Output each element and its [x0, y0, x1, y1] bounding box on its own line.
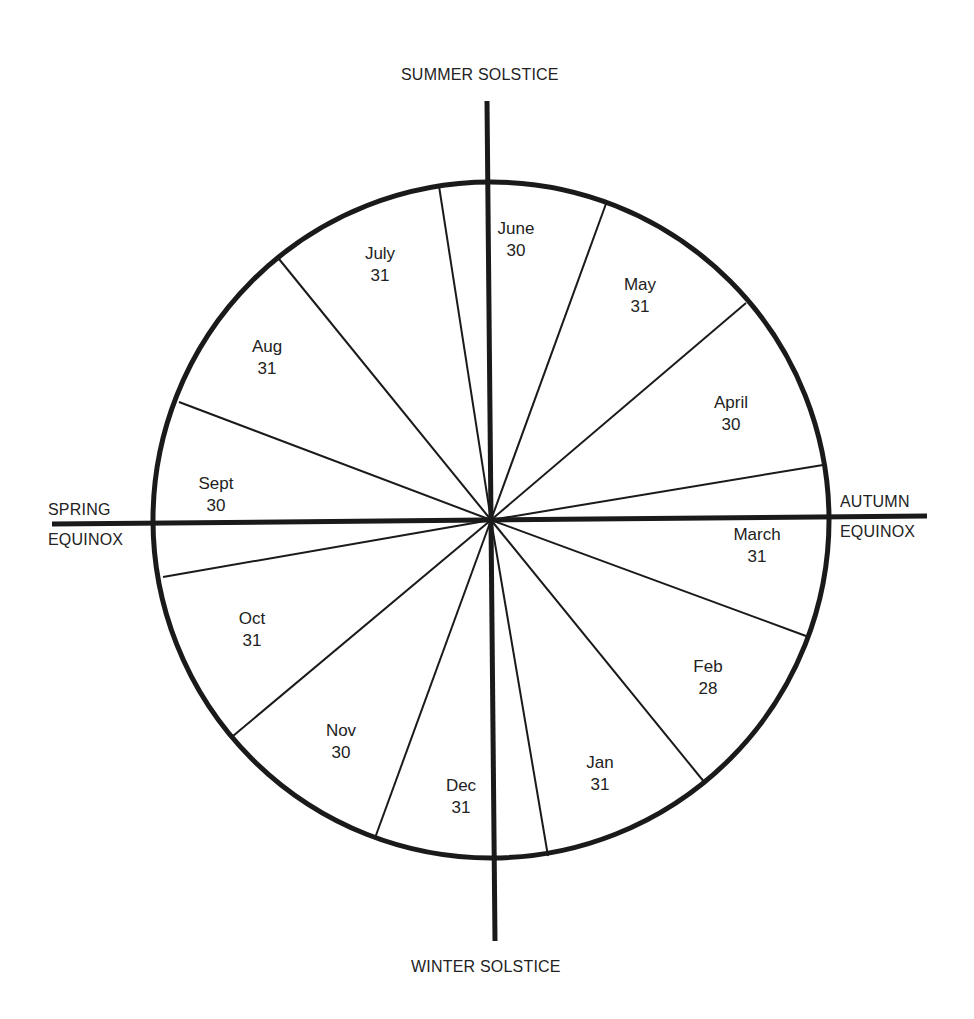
- month-name: May: [624, 274, 656, 296]
- month-day-count: 31: [446, 797, 476, 819]
- month-day-count: 30: [714, 414, 748, 436]
- month-segment-label-feb: Feb28: [693, 656, 722, 700]
- month-name: Nov: [326, 720, 356, 742]
- month-segment-label-march: March31: [733, 524, 780, 568]
- month-name: Sept: [199, 473, 234, 495]
- month-day-count: 31: [252, 358, 282, 380]
- month-day-count: 30: [498, 240, 535, 262]
- winter-solstice-label: WINTER SOLSTICE: [411, 957, 561, 977]
- autumn-equinox-label-line2: EQUINOX: [840, 522, 915, 542]
- month-day-count: 31: [624, 296, 656, 318]
- month-name: July: [365, 243, 395, 265]
- month-segment-label-jan: Jan31: [586, 752, 613, 796]
- month-day-count: 31: [733, 546, 780, 568]
- summer-solstice-label: SUMMER SOLSTICE: [401, 65, 559, 85]
- month-divider-spoke: [491, 465, 823, 520]
- month-name: Jan: [586, 752, 613, 774]
- month-segment-label-oct: Oct31: [239, 608, 265, 652]
- month-name: Feb: [693, 656, 722, 678]
- month-segment-label-dec: Dec31: [446, 775, 476, 819]
- spring-equinox-label-line2: EQUINOX: [48, 530, 123, 550]
- month-name: April: [714, 392, 748, 414]
- month-divider-spoke: [491, 520, 548, 856]
- month-day-count: 31: [586, 774, 613, 796]
- month-segment-label-nov: Nov30: [326, 720, 356, 764]
- month-segment-label-june: June30: [498, 218, 535, 262]
- month-divider-spoke: [491, 303, 746, 520]
- month-name: Dec: [446, 775, 476, 797]
- month-name: Aug: [252, 336, 282, 358]
- month-segment-label-april: April30: [714, 392, 748, 436]
- month-segment-label-sept: Sept30: [199, 473, 234, 517]
- month-name: Oct: [239, 608, 265, 630]
- month-segment-label-aug: Aug31: [252, 336, 282, 380]
- month-day-count: 28: [693, 678, 722, 700]
- month-name: March: [733, 524, 780, 546]
- month-name: June: [498, 218, 535, 240]
- month-divider-spoke: [439, 186, 491, 520]
- wheel-graphic: [0, 0, 974, 1019]
- spring-equinox-label-line1: SPRING: [48, 500, 111, 520]
- month-divider-spoke: [163, 520, 491, 577]
- month-day-count: 30: [326, 742, 356, 764]
- month-day-count: 30: [199, 495, 234, 517]
- month-day-count: 31: [365, 265, 395, 287]
- month-segment-label-july: July31: [365, 243, 395, 287]
- autumn-equinox-label-line1: AUTUMN: [840, 492, 910, 512]
- zodiac-month-wheel-diagram: SUMMER SOLSTICE WINTER SOLSTICE SPRING E…: [0, 0, 974, 1019]
- month-day-count: 31: [239, 630, 265, 652]
- month-segment-label-may: May31: [624, 274, 656, 318]
